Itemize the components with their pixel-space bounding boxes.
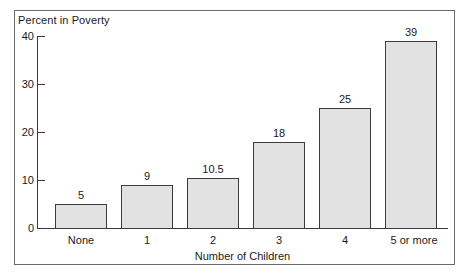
bar-value-4: 25 <box>319 94 371 105</box>
x-tick-label-2: 2 <box>187 234 239 246</box>
y-tick-10 <box>38 180 45 181</box>
y-tick-label-20: 20 <box>12 127 34 138</box>
x-tick-label-3: 3 <box>253 234 305 246</box>
bar-4[interactable] <box>319 108 371 229</box>
y-axis-title: Percent in Poverty <box>18 14 110 27</box>
bar-none[interactable] <box>55 204 107 229</box>
x-axis-title: Number of Children <box>37 250 448 262</box>
y-tick-label-0-wrap: 0 <box>10 223 34 234</box>
y-tick-label-40-wrap: 40 <box>10 31 34 42</box>
y-tick-label-20-wrap: 20 <box>10 127 34 138</box>
y-tick-label-30: 30 <box>12 79 34 90</box>
y-tick-label-30-wrap: 30 <box>10 79 34 90</box>
bar-2[interactable] <box>187 178 239 229</box>
y-tick-20 <box>38 132 45 133</box>
y-tick-30 <box>38 84 45 85</box>
x-tick-label-1: 1 <box>121 234 173 246</box>
x-tick-label-5-or-more: 5 or more <box>381 234 447 246</box>
y-tick-40 <box>38 36 45 37</box>
bar-chart: Percent in Poverty 40 30 20 10 0 5 9 10.… <box>0 0 469 280</box>
y-tick-label-10: 10 <box>12 175 34 186</box>
x-tick-label-4: 4 <box>319 234 371 246</box>
y-tick-label-0: 0 <box>12 223 34 234</box>
bar-3[interactable] <box>253 142 305 229</box>
bar-5-or-more[interactable] <box>385 41 437 229</box>
bar-value-none: 5 <box>55 190 107 201</box>
y-tick-0 <box>38 228 45 229</box>
bar-value-1: 9 <box>121 171 173 182</box>
bar-value-2: 10.5 <box>187 164 239 175</box>
bar-value-3: 18 <box>253 128 305 139</box>
y-tick-label-40: 40 <box>12 31 34 42</box>
y-tick-label-10-wrap: 10 <box>10 175 34 186</box>
bar-1[interactable] <box>121 185 173 229</box>
bar-value-5-or-more: 39 <box>385 27 437 38</box>
x-tick-label-none: None <box>55 234 107 246</box>
